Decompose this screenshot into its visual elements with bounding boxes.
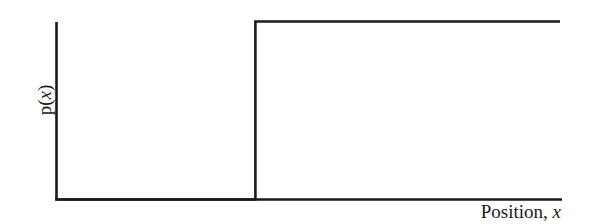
- y-label-var: x: [34, 91, 55, 99]
- step-function-chart: [0, 0, 595, 224]
- y-label-suffix: ): [34, 85, 55, 91]
- step-function-line: [57, 22, 561, 200]
- x-label-text: Position,: [481, 201, 553, 222]
- y-label-prefix: p(: [34, 99, 55, 115]
- x-axis-label: Position, x: [481, 201, 561, 223]
- y-axis-label: p(x): [34, 85, 56, 116]
- x-label-var: x: [553, 201, 561, 222]
